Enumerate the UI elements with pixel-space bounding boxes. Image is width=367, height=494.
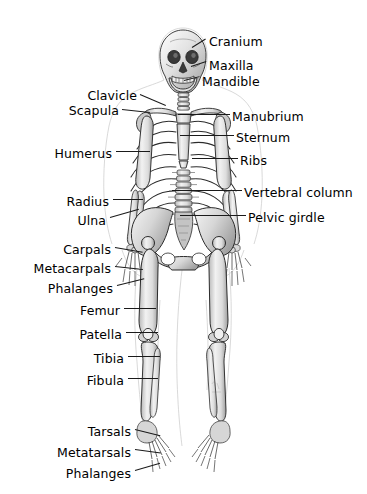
leader-line-scapula <box>122 109 150 113</box>
label-vertebral-column: Vertebral column <box>244 187 353 200</box>
label-phalanges-foot: Phalanges <box>66 468 131 481</box>
leader-line-femur <box>124 308 156 309</box>
artist-signature <box>212 382 221 392</box>
label-carpals: Carpals <box>63 244 111 257</box>
leader-line-radius <box>113 199 143 200</box>
label-ulna: Ulna <box>77 215 106 228</box>
transverse-processes <box>168 173 199 198</box>
leader-line-clavicle <box>140 94 166 106</box>
leader-line-humerus <box>116 151 150 152</box>
leader-line-fibula <box>128 378 158 379</box>
cranium-bone <box>160 30 206 93</box>
humerus-bone <box>136 116 232 189</box>
label-manubrium: Manubrium <box>232 111 304 124</box>
label-clavicle: Clavicle <box>87 90 137 103</box>
phalanges-foot-bone <box>152 449 215 472</box>
metacarpals-bone <box>125 252 242 270</box>
skeleton-diagram: CraniumMaxillaMandibleManubriumSternumRi… <box>0 0 367 494</box>
leader-line-pelvic-girdle <box>180 215 246 216</box>
sacrum-bone <box>175 212 193 250</box>
leader-line-maxilla <box>191 61 207 67</box>
leader-line-vertebral-column <box>172 190 242 191</box>
leader-line-patella <box>126 332 158 333</box>
leader-line-metacarpals <box>115 266 143 270</box>
label-patella: Patella <box>79 329 122 342</box>
leader-line-ribs <box>192 158 238 159</box>
fibula-bone <box>150 348 217 417</box>
leader-line-ulna <box>110 209 139 218</box>
label-ribs: Ribs <box>240 155 267 168</box>
label-maxilla: Maxilla <box>209 60 254 73</box>
label-phalanges-hand: Phalanges <box>48 283 113 296</box>
ribs-bone <box>131 121 236 238</box>
leader-line-cranium <box>192 39 206 48</box>
cervical-vertebrae <box>178 93 190 110</box>
femur-bone <box>139 237 228 337</box>
manubrium-bone <box>176 114 191 123</box>
label-tibia: Tibia <box>94 353 124 366</box>
label-radius: Radius <box>66 196 109 209</box>
leader-line-carpals <box>115 247 143 253</box>
leader-line-mandible <box>184 76 200 81</box>
label-femur: Femur <box>80 305 120 318</box>
tibia-bone <box>141 342 226 421</box>
leader-line-tibia <box>128 356 160 357</box>
phalanges-hand-bone <box>116 258 251 286</box>
pelvic-girdle-bone <box>131 208 235 270</box>
sternum-bone <box>176 114 191 168</box>
leader-line-phalanges-hand <box>117 278 144 286</box>
leader-line-sternum <box>180 135 234 136</box>
scapula-bone <box>136 112 230 134</box>
label-sternum: Sternum <box>236 132 290 145</box>
radius-bone <box>132 191 234 244</box>
label-mandible: Mandible <box>202 76 260 89</box>
label-humerus: Humerus <box>55 148 112 161</box>
tarsals-bone <box>137 421 230 443</box>
leader-line-manubrium <box>178 114 230 115</box>
label-fibula: Fibula <box>87 375 124 388</box>
label-metatarsals: Metatarsals <box>57 447 131 460</box>
leader-line-metatarsals <box>135 449 161 454</box>
vertebral-column-bone <box>175 170 192 213</box>
carpals-bone <box>127 245 240 253</box>
label-metacarpals: Metacarpals <box>34 263 111 276</box>
ulna-bone <box>127 190 239 245</box>
label-pelvic-girdle: Pelvic girdle <box>248 212 325 225</box>
label-cranium: Cranium <box>209 36 263 49</box>
label-scapula: Scapula <box>69 105 119 118</box>
label-tarsals: Tarsals <box>88 426 131 439</box>
skeleton-illustration <box>0 0 367 494</box>
leader-line-phalanges-foot <box>135 463 160 471</box>
patella-bone <box>143 328 224 339</box>
metatarsals-bone <box>149 435 218 459</box>
leader-line-tarsals <box>135 429 160 436</box>
